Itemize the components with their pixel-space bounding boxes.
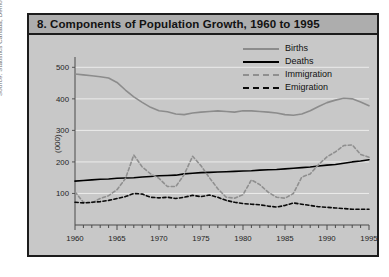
y-tick-label: 200	[56, 158, 70, 167]
legend-label-immigration: Immigration	[285, 69, 332, 79]
x-tick-label: 1980	[234, 234, 252, 243]
y-tick-label: 400	[56, 95, 70, 104]
y-axis-title: (000)	[53, 134, 62, 153]
legend-item-emigration: Emigration	[243, 82, 361, 95]
chart-screenshot: Source: Statistics Canada, Demography Di…	[0, 0, 389, 277]
legend-item-immigration: Immigration	[243, 69, 361, 82]
legend-label-emigration: Emigration	[285, 82, 328, 92]
figure-title: 8. Components of Population Growth, 1960…	[37, 18, 320, 30]
source-credit: Source: Statistics Canada, Demography Di…	[0, 0, 3, 96]
chart-legend: Births Deaths Immigration Emigration	[243, 43, 361, 95]
line-swatch-icon	[243, 61, 279, 63]
x-tick-label: 1985	[276, 234, 294, 243]
legend-label-births: Births	[285, 43, 308, 53]
legend-item-deaths: Deaths	[243, 56, 361, 69]
dashed-line-swatch-icon	[243, 74, 279, 76]
x-tick-label: 1965	[108, 234, 126, 243]
line-swatch-icon	[243, 48, 279, 50]
x-tick-label: 1990	[318, 234, 336, 243]
figure-container: 8. Components of Population Growth, 1960…	[27, 13, 379, 257]
legend-label-deaths: Deaths	[285, 56, 314, 66]
series-line-immigration	[75, 145, 369, 203]
x-tick-label: 1960	[66, 234, 84, 243]
y-tick-label: 500	[56, 63, 70, 72]
series-line-emigration	[75, 193, 369, 209]
dashed-line-swatch-icon	[243, 87, 279, 89]
plot-area: Births Deaths Immigration Emigration (00…	[29, 35, 377, 257]
x-tick-label: 1975	[192, 234, 210, 243]
x-tick-label: 1970	[150, 234, 168, 243]
x-tick-label: 1995	[360, 234, 378, 243]
legend-item-births: Births	[243, 43, 361, 56]
figure-title-bar: 8. Components of Population Growth, 1960…	[29, 15, 377, 35]
series-line-deaths	[75, 160, 369, 181]
y-tick-label: 100	[56, 189, 70, 198]
